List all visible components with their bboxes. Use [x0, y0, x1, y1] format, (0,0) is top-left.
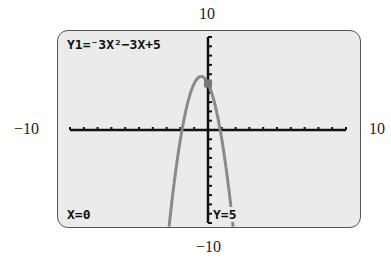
trace-cursor [204, 80, 212, 88]
cursor-x-readout: X=0 [67, 207, 90, 222]
calculator-screen: Y1=⁻3X²−3X+5 X=0 Y=5 [57, 30, 361, 228]
xmin-label: −10 [14, 120, 39, 138]
ymin-label: −10 [196, 238, 221, 256]
equation-label: Y1=⁻3X²−3X+5 [67, 37, 161, 52]
cursor-y-readout: Y=5 [213, 207, 236, 222]
parabola-curve [169, 77, 233, 227]
ymax-label: 10 [199, 5, 215, 23]
graph-plot [58, 31, 362, 229]
xmax-label: 10 [369, 120, 385, 138]
graph-figure: 10 −10 −10 10 Y1=⁻3X²−3X+5 X=0 Y=5 [0, 0, 391, 263]
